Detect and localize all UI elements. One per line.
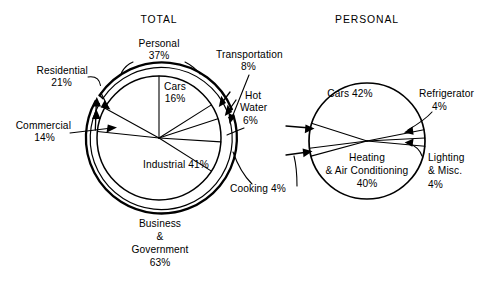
total-divider-cooking-end bbox=[159, 105, 211, 138]
label-cooking: Cooking 4% bbox=[230, 183, 286, 195]
label-personal-name: Personal bbox=[138, 38, 179, 50]
label-cars-total-name: Cars bbox=[164, 81, 186, 93]
total-divider-transportation-end bbox=[159, 138, 221, 142]
label-hotwater-pct: 6% bbox=[243, 115, 258, 127]
personal-divider-lighting-end bbox=[367, 141, 425, 146]
label-heating-pct: 40% bbox=[357, 178, 378, 190]
label-cars-personal: Cars 42% bbox=[327, 88, 373, 100]
label-residential-pct: 21% bbox=[51, 77, 72, 89]
label-personal-pct: 37% bbox=[149, 50, 170, 62]
label-residential-name: Residential bbox=[36, 65, 88, 77]
figure-root: TOTAL Personal 37% Residential 21% Comme… bbox=[0, 0, 494, 288]
label-business-line3: Government bbox=[131, 244, 188, 256]
label-refrigerator-name: Refrigerator bbox=[419, 88, 474, 100]
arrowhead-commercial bbox=[107, 125, 118, 133]
total-divider-hotwater-end bbox=[159, 119, 218, 138]
label-cars-total-pct: 16% bbox=[165, 93, 186, 105]
label-commercial-pct: 14% bbox=[34, 132, 55, 144]
total-chart-title: TOTAL bbox=[140, 14, 177, 26]
label-lighting-line1: Lighting bbox=[428, 152, 465, 164]
label-hotwater-line2: Water bbox=[240, 102, 267, 114]
total-ring-business-outer-arc bbox=[86, 101, 237, 213]
label-transportation-name: Transportation bbox=[216, 49, 283, 61]
leader-residential-curve bbox=[88, 77, 101, 86]
label-lighting-pct: 4% bbox=[428, 179, 443, 191]
leader-cooking-personal-drop bbox=[294, 156, 297, 186]
personal-divider-cars-start bbox=[312, 123, 368, 141]
label-business-pct: 63% bbox=[150, 257, 171, 269]
label-business-line1: Business bbox=[139, 218, 181, 230]
label-lighting-line2: & Misc. bbox=[428, 165, 462, 177]
pie-charts-svg bbox=[0, 0, 494, 288]
label-hotwater-line1: Hot bbox=[245, 90, 261, 102]
arrowhead-lighting bbox=[405, 139, 414, 147]
label-commercial-name: Commercial bbox=[16, 120, 71, 132]
label-industrial: Industrial 41% bbox=[143, 159, 209, 171]
leader-cooking-total bbox=[233, 152, 252, 184]
personal-divider-cooking-end bbox=[309, 141, 367, 148]
label-heating-line1: Heating bbox=[349, 152, 385, 164]
arrowhead-residential-ring bbox=[92, 97, 101, 107]
label-heating-line2: & Air Conditioning bbox=[326, 165, 409, 177]
label-refrigerator-pct: 4% bbox=[432, 101, 447, 113]
label-transportation-pct: 8% bbox=[241, 61, 256, 73]
personal-chart-title: PERSONAL bbox=[335, 14, 399, 26]
label-business-line2: & bbox=[157, 231, 164, 243]
arrowhead-residential-ring2 bbox=[92, 109, 101, 119]
